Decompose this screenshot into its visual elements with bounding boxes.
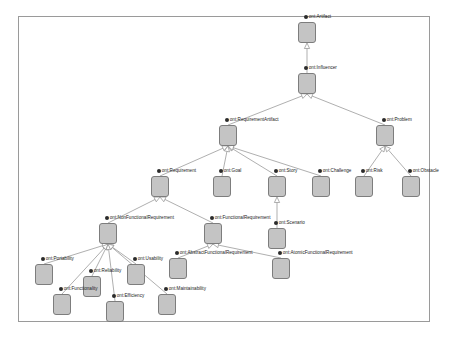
class-node-box[interactable]: [268, 176, 286, 197]
class-node-box[interactable]: [213, 176, 231, 197]
class-node-label: ont:Efficiency: [112, 293, 144, 299]
class-node-label-text: ont:Requirement: [162, 168, 196, 173]
class-node-label-text: ont:AtomicFunctionalRequirement: [283, 250, 353, 255]
class-node-label: ont:FunctionalRequirement: [210, 215, 270, 221]
class-node-box[interactable]: [219, 125, 237, 146]
class-node-label: ont:NonFunctionalRequirement: [105, 215, 174, 221]
class-node-label: ont:Reliability: [89, 268, 121, 274]
owl-class-icon: [175, 251, 179, 255]
owl-class-icon: [318, 169, 322, 173]
owl-class-icon: [164, 287, 168, 291]
owl-class-icon: [157, 169, 161, 173]
owl-class-icon: [41, 257, 45, 261]
class-node-label: ont:Risk: [361, 168, 383, 174]
class-node-box[interactable]: [298, 22, 316, 43]
class-node-label-text: ont:Functionality: [64, 286, 98, 291]
class-node-label: ont:Maintainability: [164, 286, 206, 292]
generalization-arrowhead-abstractfunc: [207, 244, 213, 249]
class-node-label-text: ont:Scenario: [279, 220, 305, 225]
owl-class-icon: [59, 287, 63, 291]
class-node-box[interactable]: [312, 176, 330, 197]
owl-class-icon: [304, 66, 308, 70]
owl-class-icon: [219, 169, 223, 173]
diagram-canvas: ont:Artifactont:Influenceront:Requiremen…: [0, 0, 449, 342]
class-node-box[interactable]: [204, 223, 222, 244]
class-node-label: ont:Functionality: [59, 286, 98, 292]
class-node-box[interactable]: [169, 258, 187, 279]
class-node-label: ont:Goal: [219, 168, 241, 174]
class-node-label: ont:Influencer: [304, 65, 337, 71]
owl-class-icon: [278, 251, 282, 255]
owl-class-icon: [361, 169, 365, 173]
class-node-label: ont:Artifact: [304, 14, 331, 20]
class-node-label-text: ont:AbstractFunctionalRequirement: [180, 250, 253, 255]
generalization-arrowhead-nonfunctional: [154, 197, 160, 202]
generalization-edge-problem-to-influencer: [312, 96, 385, 125]
class-node-box[interactable]: [99, 223, 117, 244]
class-node-label: ont:Usability: [133, 256, 163, 262]
owl-class-icon: [133, 257, 137, 261]
class-node-label-text: ont:FunctionalRequirement: [215, 215, 271, 220]
owl-class-icon: [112, 294, 116, 298]
class-node-label: ont:Scenario: [274, 220, 305, 226]
owl-class-icon: [210, 216, 214, 220]
generalization-arrowhead-risk: [380, 146, 385, 152]
class-node-box[interactable]: [268, 228, 286, 249]
class-node-box[interactable]: [376, 125, 394, 146]
class-node-label: ont:RequirementArtifact: [225, 117, 279, 123]
class-node-box[interactable]: [355, 176, 373, 197]
class-node-label: ont:Requirement: [157, 168, 196, 174]
class-node-label-text: ont:Problem: [387, 117, 412, 122]
owl-class-icon: [408, 169, 412, 173]
class-node-label: ont:Obstacle: [408, 168, 439, 174]
class-node-box[interactable]: [298, 73, 316, 94]
class-node-label: ont:AbstractFunctionalRequirement: [175, 250, 252, 256]
class-node-label-text: ont:Portability: [46, 256, 74, 261]
generalization-arrowhead-scenario: [274, 197, 279, 203]
class-node-box[interactable]: [158, 294, 176, 315]
owl-class-icon: [274, 221, 278, 225]
class-node-label: ont:AtomicFunctionalRequirement: [278, 250, 353, 256]
owl-class-icon: [274, 169, 278, 173]
class-node-label-text: ont:Usability: [138, 256, 163, 261]
class-node-label-text: ont:Story: [279, 168, 298, 173]
class-node-label: ont:Challenge: [318, 168, 351, 174]
class-node-label-text: ont:Challenge: [323, 168, 352, 173]
generalization-arrowhead-functional: [160, 197, 166, 202]
class-node-box[interactable]: [35, 264, 53, 285]
owl-class-icon: [225, 118, 229, 122]
generalization-arrowhead-reqartifact: [301, 94, 307, 99]
owl-class-icon: [89, 269, 93, 273]
class-node-box[interactable]: [272, 258, 290, 279]
class-node-label-text: ont:Artifact: [309, 14, 331, 19]
generalization-arrowhead-problem: [307, 94, 313, 99]
class-node-label-text: ont:Influencer: [309, 65, 337, 70]
class-node-label-text: ont:Efficiency: [117, 293, 145, 298]
owl-class-icon: [105, 216, 109, 220]
class-node-box[interactable]: [402, 176, 420, 197]
class-node-label-text: ont:Goal: [224, 168, 242, 173]
class-node-label-text: ont:Reliability: [94, 268, 122, 273]
generalization-arrowhead-influencer: [304, 43, 309, 49]
class-node-label-text: ont:NonFunctionalRequirement: [110, 215, 174, 220]
class-node-label-text: ont:Maintainability: [169, 286, 206, 291]
class-node-box[interactable]: [151, 176, 169, 197]
class-node-label: ont:Problem: [382, 117, 412, 123]
class-node-label: ont:Portability: [41, 256, 74, 262]
class-node-box[interactable]: [127, 264, 145, 285]
class-node-label-text: ont:RequirementArtifact: [230, 117, 279, 122]
class-node-label-text: ont:Risk: [366, 168, 383, 173]
class-node-label-text: ont:Obstacle: [413, 168, 439, 173]
owl-class-icon: [382, 118, 386, 122]
class-node-box[interactable]: [53, 294, 71, 315]
owl-class-icon: [304, 15, 308, 19]
class-node-box[interactable]: [106, 301, 124, 322]
class-node-label: ont:Story: [274, 168, 297, 174]
